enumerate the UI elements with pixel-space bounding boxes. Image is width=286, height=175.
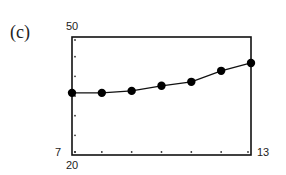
line-chart — [0, 0, 286, 175]
x-tick-dot — [131, 151, 133, 153]
data-point-marker — [68, 89, 76, 97]
data-point-marker — [127, 87, 135, 95]
x-tick-dot — [161, 151, 163, 153]
y-tick-dot — [74, 39, 76, 41]
x-tick-dot — [190, 151, 192, 153]
data-markers — [68, 59, 255, 97]
data-point-marker — [247, 59, 255, 67]
y-tick-dot — [74, 151, 76, 153]
y-tick-dot — [74, 56, 76, 58]
data-point-marker — [98, 89, 106, 97]
x-tick-dot — [247, 151, 249, 153]
x-tick-dot — [101, 151, 103, 153]
plot-frame — [72, 37, 251, 155]
y-tick-dot — [74, 134, 76, 136]
x-tick-dot — [220, 151, 222, 153]
y-tick-dot — [74, 115, 76, 117]
data-point-marker — [187, 78, 195, 86]
y-tick-dot — [74, 75, 76, 77]
data-point-marker — [217, 67, 225, 75]
data-point-marker — [157, 82, 165, 90]
